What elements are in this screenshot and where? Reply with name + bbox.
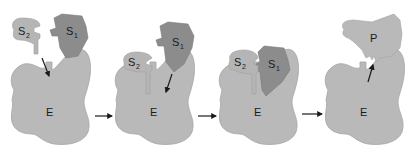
- svg-text:S: S: [66, 25, 73, 37]
- svg-text:S: S: [234, 56, 241, 68]
- svg-text:S: S: [268, 58, 275, 70]
- panel-1: E S 2 S 1: [11, 14, 90, 145]
- panel-4: E P: [325, 14, 404, 145]
- enzyme-label: E: [46, 106, 53, 118]
- enzyme-label: E: [254, 106, 261, 118]
- enzyme-label: E: [360, 106, 367, 118]
- svg-text:S: S: [18, 25, 25, 37]
- enzyme-mechanism-diagram: E S 2 S 1 E S 2 S 1: [0, 0, 418, 167]
- svg-text:2: 2: [136, 63, 140, 70]
- svg-text:1: 1: [276, 65, 280, 72]
- product: P: [342, 14, 402, 62]
- panel-2: E S 2 S 1: [115, 22, 194, 145]
- enzyme: E: [325, 49, 404, 144]
- enzyme: E: [11, 49, 90, 144]
- substrate-s2: S 2: [12, 18, 40, 54]
- svg-text:1: 1: [180, 43, 184, 50]
- enzyme-label: E: [150, 106, 157, 118]
- panel-3: E S 1 S 2: [219, 46, 298, 145]
- svg-text:2: 2: [26, 32, 30, 39]
- svg-text:1: 1: [74, 32, 78, 39]
- svg-text:S: S: [172, 36, 179, 48]
- svg-text:S: S: [128, 56, 135, 68]
- svg-text:2: 2: [242, 63, 246, 70]
- product-label: P: [370, 32, 377, 44]
